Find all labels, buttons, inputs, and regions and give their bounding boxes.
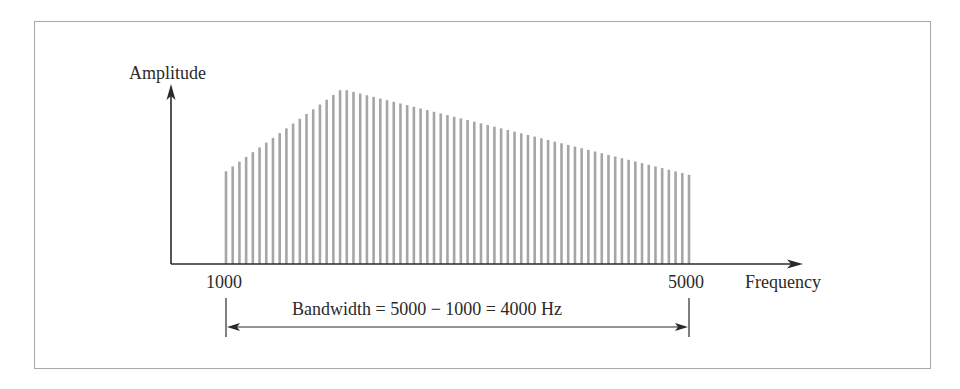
spectrum-component-bar [614,157,617,264]
spectrum-component-bar [238,162,241,264]
spectrum-component-bar [252,152,255,264]
spectrum-component-bar [647,165,650,264]
spectrum-component-bar [332,95,335,264]
spectrum-component-bar [319,105,322,265]
spectrum-component-bar [426,110,429,264]
spectrum-component-bar [594,152,597,264]
spectrum-component-bar [231,166,234,264]
spectrum-component-bar [265,143,268,264]
spectrum-component-bar [627,160,630,264]
spectrum-component-bar [433,112,436,264]
spectrum-component-bar [486,125,489,264]
spectrum-component-bar [352,92,355,264]
spectrum-component-bar [607,155,610,264]
spectrum-component-bar [533,137,536,264]
spectrum-component-bar [567,145,570,264]
spectrum-component-bar [245,157,248,264]
spectrum-component-bar [278,133,281,264]
spectrum-component-bar [466,120,469,264]
spectrum-component-bar [258,147,261,264]
spectrum-component-bar [547,140,550,264]
spectrum-component-bar [527,135,530,264]
spectrum-component-bar [386,100,389,264]
spectrum-component-bar [339,90,342,264]
spectrum-component-bar [372,97,375,264]
x-tick-1000: 1000 [206,273,242,291]
spectrum-component-bar [540,138,543,264]
spectrum-component-bar [312,109,315,264]
spectrum-component-bar [460,118,463,264]
spectrum-component-bar [560,143,563,264]
spectrum-component-bar [366,95,369,264]
bandwidth-annotation: Bandwidth = 5000 − 1000 = 4000 Hz [292,300,562,318]
spectrum-component-bar [419,108,422,264]
spectrum-component-bar [507,130,510,264]
spectrum-component-bar [305,114,308,264]
spectrum-component-bar [446,115,449,264]
spectrum-component-bar [674,171,677,264]
y-axis-label: Amplitude [129,64,206,82]
spectrum-component-bar [600,153,603,264]
spectrum-component-bar [359,94,362,264]
spectrum-component-bar [654,166,657,264]
spectrum-component-bar [580,148,583,264]
spectrum-component-bar [453,117,456,264]
spectrum-component-bar [661,168,664,264]
spectrum-component-bar [480,123,483,264]
spectrum-component-bar [681,173,684,264]
spectrum-component-bar [634,161,637,264]
spectrum-component-bar [668,170,671,264]
spectrum-component-bar [473,122,476,264]
spectrum-component-bar [399,104,402,265]
spectrum-component-bar [520,133,523,264]
spectrum-component-bar [413,107,416,264]
spectrum-component-bar [406,105,409,264]
spectrum-bars [225,90,691,264]
spectrum-component-bar [379,99,382,264]
spectrum-component-bar [225,171,228,264]
spectrum-component-bar [513,132,516,264]
spectrum-component-bar [641,163,644,264]
spectrum-diagram [0,0,960,389]
spectrum-component-bar [345,90,348,264]
spectrum-component-bar [554,142,557,264]
spectrum-component-bar [688,175,691,264]
spectrum-component-bar [439,113,442,264]
x-tick-5000: 5000 [668,273,704,291]
spectrum-component-bar [285,128,288,264]
spectrum-component-bar [574,147,577,264]
spectrum-component-bar [493,127,496,264]
spectrum-component-bar [292,124,295,264]
spectrum-component-bar [500,128,503,264]
spectrum-component-bar [587,150,590,264]
spectrum-component-bar [392,102,395,264]
spectrum-component-bar [299,119,302,264]
spectrum-component-bar [325,100,328,264]
spectrum-component-bar [272,138,275,264]
spectrum-component-bar [621,158,624,264]
x-axis-label: Frequency [745,273,821,291]
